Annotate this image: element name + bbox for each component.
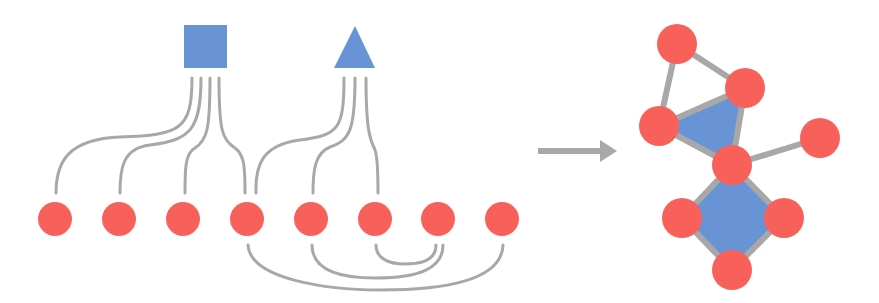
edge-node4-node8 xyxy=(248,245,503,290)
rnode-7 xyxy=(764,198,804,238)
rnode-1 xyxy=(657,24,697,64)
node-7 xyxy=(421,202,455,236)
right-graph xyxy=(639,24,840,290)
square-hyperedge-links xyxy=(56,78,245,193)
square-hyperedge-icon xyxy=(184,25,227,68)
link-square-node3 xyxy=(185,78,210,193)
node-2 xyxy=(102,202,136,236)
rnode-8 xyxy=(712,250,752,290)
link-triangle-node4 xyxy=(256,78,344,193)
triangle-hyperedge-links xyxy=(256,78,378,193)
node-1 xyxy=(38,202,72,236)
node-4 xyxy=(230,202,264,236)
rnode-2 xyxy=(725,68,765,108)
edge-node6-node7 xyxy=(376,245,436,264)
rnode-6 xyxy=(662,198,702,238)
node-3 xyxy=(166,202,200,236)
link-triangle-node6 xyxy=(366,78,378,193)
rnode-5 xyxy=(712,145,752,185)
link-square-node1 xyxy=(56,78,192,193)
node-6 xyxy=(358,202,392,236)
hypergraph-diagram xyxy=(0,0,879,303)
rnode-3 xyxy=(639,106,679,146)
pairwise-edges xyxy=(248,245,503,290)
node-5 xyxy=(294,202,328,236)
link-square-node4 xyxy=(219,78,245,193)
triangle-hyperedge-icon xyxy=(334,26,375,68)
node-8 xyxy=(485,202,519,236)
left-nodes xyxy=(38,202,519,236)
arrow-right-icon xyxy=(538,140,617,162)
rnode-4 xyxy=(800,118,840,158)
